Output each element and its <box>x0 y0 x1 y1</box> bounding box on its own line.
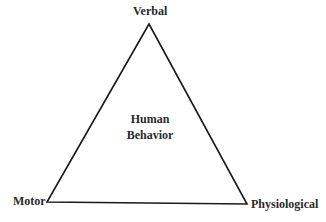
vertex-label-physiological: Physiological <box>251 198 318 210</box>
diagram-canvas: Verbal Motor Physiological Human Behavio… <box>0 0 326 222</box>
center-label: Human Behavior <box>118 111 182 143</box>
center-label-line2: Behavior <box>118 127 182 143</box>
vertex-label-verbal: Verbal <box>133 5 167 17</box>
vertex-label-motor: Motor <box>13 195 46 207</box>
center-label-line1: Human <box>118 111 182 127</box>
